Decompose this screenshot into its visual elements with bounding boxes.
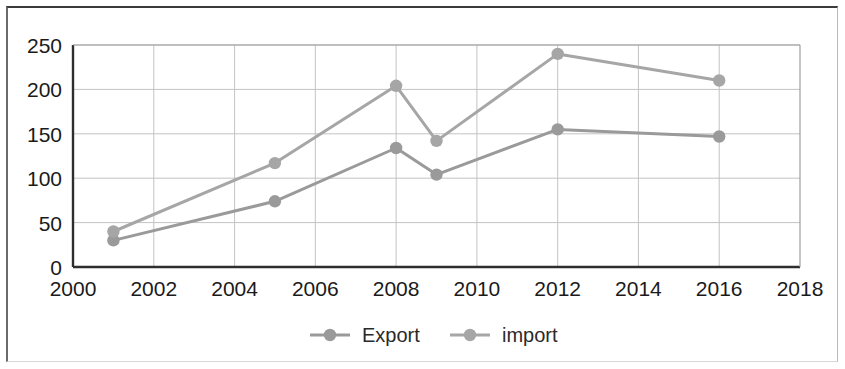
data-point-marker xyxy=(552,48,564,60)
legend-swatch-marker xyxy=(324,329,336,341)
x-tick-label: 2008 xyxy=(373,277,420,300)
data-point-marker xyxy=(390,80,402,92)
chart-legend: Exportimport xyxy=(310,324,558,346)
data-point-marker xyxy=(390,142,402,154)
x-tick-label: 2000 xyxy=(50,277,97,300)
y-tick-label: 100 xyxy=(27,167,62,190)
legend-label: Export xyxy=(362,324,420,346)
y-tick-label: 200 xyxy=(27,78,62,101)
data-point-marker xyxy=(430,135,442,147)
x-tick-label: 2002 xyxy=(130,277,177,300)
y-axis-tick-labels: 250 200 150 100 50 0 xyxy=(27,34,62,279)
x-tick-label: 2014 xyxy=(615,277,662,300)
x-tick-label: 2004 xyxy=(211,277,258,300)
data-point-marker xyxy=(269,195,281,207)
legend-label: import xyxy=(502,324,558,346)
data-point-marker xyxy=(552,123,564,135)
y-tick-label: 250 xyxy=(27,34,62,57)
legend-entry-import[interactable]: import xyxy=(450,324,558,346)
data-point-marker xyxy=(713,130,725,142)
data-point-marker xyxy=(713,74,725,86)
data-point-marker xyxy=(430,168,442,180)
line-chart: 250 200 150 100 50 0 2000 2002 2004 2006… xyxy=(0,0,845,369)
x-tick-label: 2010 xyxy=(454,277,501,300)
y-tick-label: 0 xyxy=(50,256,62,279)
x-tick-label: 2016 xyxy=(696,277,743,300)
x-tick-label: 2012 xyxy=(534,277,581,300)
x-tick-label: 2018 xyxy=(777,277,824,300)
chart-screenshot: 250 200 150 100 50 0 2000 2002 2004 2006… xyxy=(0,0,845,369)
data-point-marker xyxy=(269,157,281,169)
data-point-marker xyxy=(107,225,119,237)
y-tick-label: 150 xyxy=(27,123,62,146)
y-tick-label: 50 xyxy=(39,212,62,235)
legend-entry-export[interactable]: Export xyxy=(310,324,420,346)
x-tick-label: 2006 xyxy=(292,277,339,300)
legend-swatch-marker xyxy=(464,329,476,341)
plot-area-background xyxy=(73,45,800,267)
chart-svg: 250 200 150 100 50 0 2000 2002 2004 2006… xyxy=(0,0,845,369)
x-axis-tick-labels: 2000 2002 2004 2006 2008 2010 2012 2014 … xyxy=(50,277,824,300)
